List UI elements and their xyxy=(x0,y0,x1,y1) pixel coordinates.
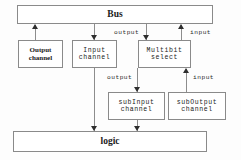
node-suboutput-channel[interactable]: subOutput channel xyxy=(168,92,226,120)
node-multibit-select-label: Multibit select xyxy=(146,47,182,62)
node-output-channel-label: Output channel xyxy=(29,46,52,62)
diagram-canvas: Bus output input Output channel Input ch… xyxy=(0,0,241,160)
node-input-channel-label: Input channel xyxy=(79,47,111,62)
edge-label-bus-input: input xyxy=(190,29,211,36)
node-logic[interactable]: logic xyxy=(13,131,207,152)
node-suboutput-channel-label: subOutput channel xyxy=(177,99,218,114)
node-output-channel[interactable]: Output channel xyxy=(18,40,63,68)
node-multibit-select[interactable]: Multibit select xyxy=(138,40,191,68)
edge-label-bus-output: output xyxy=(114,29,139,36)
node-subinput-channel-label: subInput channel xyxy=(118,99,154,114)
arrowhead-up-to-bus-from-output-channel xyxy=(32,24,38,29)
node-bus[interactable]: Bus xyxy=(17,5,213,24)
node-input-channel[interactable]: Input channel xyxy=(72,40,117,68)
arrowhead-up-to-multibit-select xyxy=(183,68,189,73)
node-logic-label: logic xyxy=(101,136,120,147)
node-subinput-channel[interactable]: subInput channel xyxy=(108,92,165,120)
edge-input-channel-to-logic xyxy=(94,68,95,132)
node-bus-label: Bus xyxy=(107,9,122,20)
edge-label-multibit-output: output xyxy=(107,74,132,81)
edge-label-multibit-input: input xyxy=(193,74,214,81)
arrowhead-up-to-bus-from-multibit-select xyxy=(178,24,184,29)
